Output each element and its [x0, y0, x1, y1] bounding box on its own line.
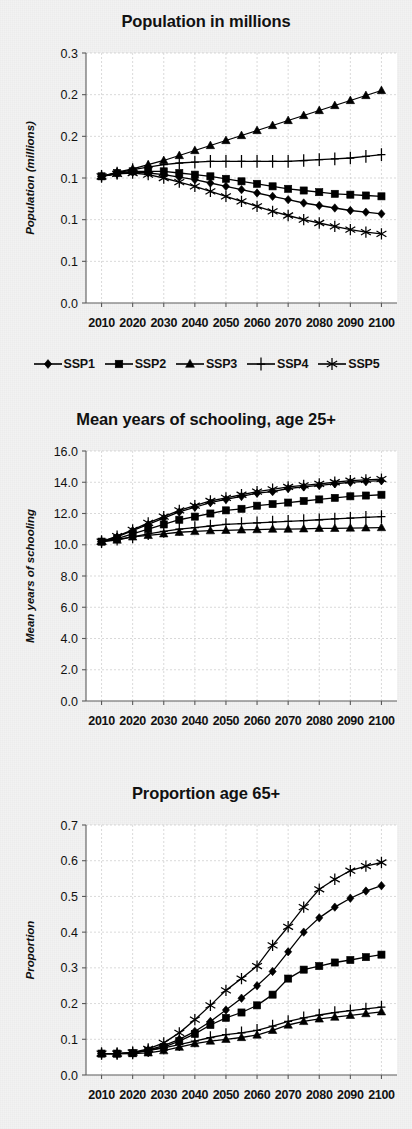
square-marker-icon [115, 360, 122, 367]
data-point-SSP2-2070 [285, 185, 292, 192]
chart-svg-schooling: 0.02.04.06.08.010.012.014.016.0201020202… [0, 429, 412, 769]
data-point-SSP2-2055 [238, 178, 245, 185]
y-tick-label: 0.1 [61, 1033, 78, 1047]
legend-item-SSP5[interactable]: SSP5 [317, 356, 379, 372]
data-point-SSP2-2080 [316, 496, 323, 503]
chart-title-schooling: Mean years of schooling, age 25+ [0, 392, 412, 429]
y-tick-label: 0.7 [61, 819, 78, 833]
square-marker-icon [207, 1021, 214, 1028]
data-point-legend-SSP4 [257, 357, 265, 370]
y-tick-label: 0.4 [61, 926, 78, 940]
data-point-SSP2-2050 [222, 507, 229, 514]
x-tick-label: 2080 [306, 316, 333, 330]
data-point-SSP2-2075 [300, 966, 307, 973]
data-point-SSP2-2045 [207, 510, 214, 517]
data-point-SSP2-2045 [207, 1021, 214, 1028]
square-marker-icon [222, 507, 229, 514]
data-point-SSP2-2080 [316, 189, 323, 196]
square-marker-icon [300, 966, 307, 973]
legend-item-SSP1[interactable]: SSP1 [33, 356, 95, 372]
data-point-SSP2-2085 [331, 959, 338, 966]
x-tick-label: 2040 [182, 1088, 209, 1102]
x-tick-label: 2100 [368, 1088, 395, 1102]
x-tick-label: 2020 [119, 1088, 146, 1102]
data-point-SSP2-2040 [191, 171, 198, 178]
y-tick-label: 8.0 [61, 570, 78, 584]
square-marker-icon [253, 502, 260, 509]
square-marker-icon [253, 1002, 260, 1009]
square-marker-icon [191, 513, 198, 520]
square-marker-icon [378, 951, 385, 958]
square-marker-icon [176, 169, 183, 176]
y-tick-label: 0.3 [61, 47, 78, 61]
data-point-SSP2-2035 [176, 169, 183, 176]
y-tick-label: 0.2 [61, 88, 78, 102]
square-marker-icon [207, 510, 214, 517]
data-point-SSP2-2090 [347, 191, 354, 198]
square-marker-icon [222, 1014, 229, 1021]
y-axis-title: Proportion [24, 921, 36, 980]
x-tick-label: 2040 [182, 714, 209, 728]
data-point-SSP2-2065 [269, 991, 276, 998]
square-marker-icon [316, 963, 323, 970]
data-point-SSP2-2095 [362, 492, 369, 499]
data-point-SSP2-2035 [176, 516, 183, 523]
y-tick-label: 0.1 [61, 172, 78, 186]
x-tick-label: 2060 [244, 316, 271, 330]
data-point-SSP2-2075 [300, 187, 307, 194]
square-marker-icon [316, 189, 323, 196]
legend-symbol-square [104, 356, 134, 372]
data-point-SSP2-2060 [253, 1002, 260, 1009]
square-marker-icon [378, 193, 385, 200]
square-marker-icon [378, 491, 385, 498]
data-point-SSP2-2080 [316, 963, 323, 970]
data-point-SSP2-2070 [285, 499, 292, 506]
y-tick-label: 12.0 [54, 507, 78, 521]
x-tick-label: 2070 [275, 316, 302, 330]
legend-label: SSP4 [277, 357, 308, 371]
chart-svg-population: 0.00.10.10.10.20.20.32010202020302040205… [0, 31, 412, 349]
y-tick-label: 4.0 [61, 632, 78, 646]
x-tick-label: 2050 [213, 1088, 240, 1102]
legend-label: SSP2 [135, 357, 166, 371]
x-tick-label: 2030 [150, 1088, 177, 1102]
x-tick-label: 2050 [213, 714, 240, 728]
data-point-SSP2-2100 [378, 491, 385, 498]
square-marker-icon [269, 183, 276, 190]
legend-item-SSP2[interactable]: SSP2 [104, 356, 166, 372]
x-tick-label: 2030 [150, 714, 177, 728]
data-point-SSP2-2060 [253, 502, 260, 509]
x-tick-label: 2100 [368, 714, 395, 728]
legend-item-SSP3[interactable]: SSP3 [175, 356, 237, 372]
chart-title-age65: Proportion age 65+ [0, 770, 412, 803]
legend-item-SSP4[interactable]: SSP4 [246, 356, 308, 372]
data-point-SSP2-2050 [222, 175, 229, 182]
square-marker-icon [331, 190, 338, 197]
x-tick-label: 2070 [275, 714, 302, 728]
x-tick-label: 2050 [213, 316, 240, 330]
y-tick-label: 0.0 [61, 297, 78, 311]
y-tick-label: 14.0 [54, 476, 78, 490]
y-axis-title: Mean years of schooling [24, 509, 36, 643]
y-tick-label: 0.5 [61, 890, 78, 904]
x-tick-label: 2040 [182, 316, 209, 330]
legend-label: SSP5 [348, 357, 379, 371]
square-marker-icon [269, 991, 276, 998]
y-tick-label: 6.0 [61, 601, 78, 615]
chart-panel-schooling: Mean years of schooling, age 25+ 0.02.04… [0, 392, 412, 770]
data-point-SSP2-2090 [347, 956, 354, 963]
y-tick-label: 16.0 [54, 445, 78, 459]
x-tick-label: 2080 [306, 1088, 333, 1102]
data-point-SSP2-2095 [362, 192, 369, 199]
square-marker-icon [331, 494, 338, 501]
chart-legend: SSP1SSP2SSP3SSP4SSP5 [0, 356, 412, 372]
x-tick-label: 2020 [119, 316, 146, 330]
square-marker-icon [300, 187, 307, 194]
legend-label: SSP1 [64, 357, 95, 371]
y-tick-label: 0.2 [61, 997, 78, 1011]
x-tick-label: 2100 [368, 316, 395, 330]
legend-symbol-asterisk [317, 356, 347, 372]
y-tick-label: 0.2 [61, 130, 78, 144]
square-marker-icon [285, 975, 292, 982]
legend-symbol-triangle [175, 356, 205, 372]
